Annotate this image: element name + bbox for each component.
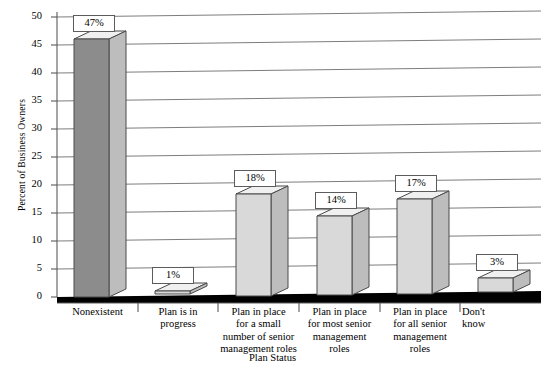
floor-slab <box>57 291 541 303</box>
x-category-line: for a small <box>215 318 302 330</box>
x-category-line: Plan in place <box>380 306 460 318</box>
bar-plan-small-number <box>236 186 288 296</box>
data-label-plan-most-senior: 14% <box>315 192 357 209</box>
x-category-line: Plan is in <box>138 306 218 318</box>
gridline-10 <box>57 235 541 241</box>
x-category-line: management <box>299 331 380 343</box>
x-category-line: for most senior <box>299 318 380 330</box>
gridline-40 <box>57 67 541 73</box>
x-category-label-dont-know: Don't know <box>462 306 532 331</box>
gridline-15 <box>57 207 541 213</box>
gridlines <box>57 11 541 269</box>
x-category-label-nonexistent: Nonexistent <box>57 306 138 318</box>
bar-plan-in-progress <box>155 283 207 294</box>
bar-front-face <box>74 39 109 297</box>
x-category-line: management <box>380 331 460 343</box>
x-category-label-plan-most-senior: Plan in place for most senior management… <box>299 306 380 356</box>
y-tick-label-35: 35 <box>16 95 42 105</box>
bar-front-face <box>317 216 352 295</box>
y-tick-label-5: 5 <box>16 263 42 273</box>
x-category-line: Plan in place <box>299 306 380 318</box>
y-tick-label-30: 30 <box>16 123 42 133</box>
y-tick-label-10: 10 <box>16 235 42 245</box>
gridline-45 <box>57 39 541 45</box>
x-category-label-plan-in-progress: Plan is in progress <box>138 306 218 331</box>
x-category-line: know <box>462 318 532 330</box>
bar-dont-know <box>478 270 530 292</box>
bar-front-face <box>478 278 513 292</box>
y-tick-label-50: 50 <box>16 11 42 21</box>
x-category-line: Don't <box>462 306 532 318</box>
x-category-label-plan-small-number: Plan in place for a small number of seni… <box>215 306 302 356</box>
gridline-20 <box>57 179 541 185</box>
bar-chart: Percent of Business Owners 50 45 40 35 3… <box>0 0 545 375</box>
y-tick-label-20: 20 <box>16 179 42 189</box>
gridline-35 <box>57 95 541 101</box>
bar-front-face <box>236 194 271 296</box>
gridline-5 <box>57 263 541 269</box>
data-label-plan-all-senior: 17% <box>395 175 437 192</box>
y-tick-label-15: 15 <box>16 207 42 217</box>
y-tick-label-40: 40 <box>16 67 42 77</box>
x-category-line: number of senior <box>215 331 302 343</box>
bar-side-face <box>432 191 449 294</box>
y-axis <box>51 12 57 297</box>
gridline-30 <box>57 123 541 129</box>
bar-plan-most-senior <box>317 208 369 295</box>
gridline-25 <box>57 151 541 157</box>
gridline-50 <box>57 11 541 17</box>
data-label-plan-small-number: 18% <box>234 170 276 187</box>
x-category-label-plan-all-senior: Plan in place for all senior management … <box>380 306 460 356</box>
bar-side-face <box>271 186 288 296</box>
y-tick-label-25: 25 <box>16 151 42 161</box>
data-label-plan-in-progress: 1% <box>152 267 194 284</box>
x-category-line: Nonexistent <box>57 306 138 318</box>
x-category-line: for all senior <box>380 318 460 330</box>
bar-plan-all-senior <box>397 191 449 294</box>
x-axis-title: Plan Status <box>0 352 545 363</box>
data-label-dont-know: 3% <box>476 254 518 271</box>
bar-side-face <box>109 31 126 297</box>
bar-front-face <box>397 199 432 294</box>
bar-side-face <box>352 208 369 295</box>
bar-front-face <box>155 291 190 294</box>
x-category-line: Plan in place <box>215 306 302 318</box>
data-label-nonexistent: 47% <box>73 15 115 32</box>
x-category-line: progress <box>138 318 218 330</box>
y-tick-label-45: 45 <box>16 39 42 49</box>
y-tick-label-0: 0 <box>16 291 42 301</box>
bar-nonexistent <box>74 31 126 297</box>
